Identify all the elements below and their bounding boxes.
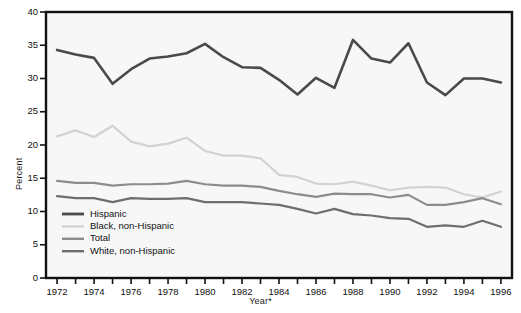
legend-label: Black, non-Hispanic: [90, 220, 174, 231]
y-axis-tick-label: 20: [10, 139, 38, 150]
x-axis-tick-label: 1980: [189, 286, 221, 297]
y-axis-tick-label: 25: [10, 105, 38, 116]
y-axis-tick-label: 5: [10, 238, 38, 249]
x-axis-tick-label: 1994: [448, 286, 480, 297]
x-axis-tick-label: 1986: [300, 286, 332, 297]
x-axis-tick-label: 1988: [337, 286, 369, 297]
x-axis-label: Year*: [0, 296, 521, 306]
legend-label: White, non-Hispanic: [90, 245, 175, 256]
y-axis-tick-label: 40: [10, 6, 38, 17]
plot-svg: [0, 0, 521, 313]
y-axis-tick-label: 35: [10, 39, 38, 50]
x-axis-tick-label: 1990: [374, 286, 406, 297]
x-axis-tick-label: 1984: [263, 286, 295, 297]
legend-label: Total: [90, 232, 110, 243]
y-axis-tick-label: 0: [10, 272, 38, 283]
x-axis-tick-label: 1992: [411, 286, 443, 297]
x-axis-tick-label: 1976: [115, 286, 147, 297]
x-axis-tick-label: 1978: [152, 286, 184, 297]
plot-background: [46, 12, 512, 278]
x-axis-tick-label: 1972: [41, 286, 73, 297]
y-axis-tick-label: 10: [10, 205, 38, 216]
legend-label: Hispanic: [90, 208, 126, 219]
x-axis-tick-label: 1974: [78, 286, 110, 297]
chart-figure: Percent Year* 05101520253035401972197419…: [0, 0, 521, 313]
x-axis-tick-label: 1982: [226, 286, 258, 297]
x-axis-tick-label: 1996: [485, 286, 517, 297]
y-axis-tick-label: 30: [10, 72, 38, 83]
y-axis-tick-label: 15: [10, 172, 38, 183]
